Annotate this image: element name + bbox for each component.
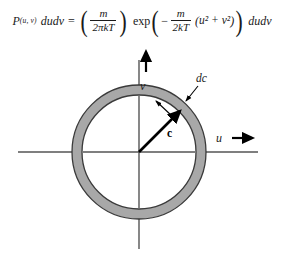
prefactor-open-paren: ( [80,9,87,32]
exp-fraction: m 2kT [171,8,192,33]
prefactor-fraction: m 2πkT [90,8,116,33]
exp-function-label: exp [132,15,150,27]
equation-equals-sign: = [64,15,79,27]
velocity-space-diagram: v u dc c [0,42,284,263]
equation-lhs-symbol: P [12,15,19,27]
u-axis-label: u [216,131,222,145]
equation-row: P(u, v) dudv = ( m 2πkT ) exp ( − m 2kT … [12,8,271,33]
dc-label: dc [196,72,207,84]
equation-lhs-subscript: (u, v) [20,17,37,25]
prefactor-denominator: 2πkT [90,20,116,33]
exp-minus-sign: − [160,15,169,27]
probability-equation: P(u, v) dudv = ( m 2πkT ) exp ( − m 2kT … [0,8,284,33]
equation-rhs-differential: dudv [248,15,271,27]
exp-argument: u² + v² [199,15,230,27]
exp-close-paren: ) [236,9,243,32]
prefactor-close-paren: ) [119,9,126,32]
dc-leader-arrow [186,86,198,101]
exp-argument-close-paren: ) [230,15,234,27]
exp-numerator: m [175,8,187,20]
speed-vector-label-c: c [167,127,172,139]
exp-denominator: 2kT [171,20,192,33]
exp-open-paren: ( [152,9,159,32]
v-axis-label: v [140,79,146,93]
equation-lhs-differential: dudv [41,15,64,27]
figure-page: P(u, v) dudv = ( m 2πkT ) exp ( − m 2kT … [0,0,284,263]
prefactor-numerator: m [97,8,109,20]
